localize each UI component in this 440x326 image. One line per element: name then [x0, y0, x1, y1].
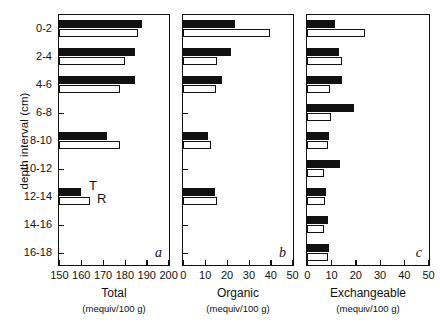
bar-row-16-18 — [59, 242, 168, 264]
bar-b-0-2-T — [183, 20, 235, 28]
x-axis-unit-b: (mequiv/100 g) — [182, 303, 294, 314]
bar-c-8-10-T — [307, 132, 329, 140]
panel-letter-a: a — [155, 245, 162, 261]
bar-row-4-6 — [59, 74, 168, 96]
panel-letter-c: c — [416, 245, 422, 261]
bar-c-0-2-R — [307, 29, 365, 37]
bar-c-10-12-R — [307, 169, 324, 177]
x-tick-labels-a: 150160170180190200 — [59, 268, 168, 282]
x-tick-labels-b: 01020304050 — [183, 268, 292, 282]
bar-row-0-2 — [307, 18, 428, 40]
bar-a-0-2-T — [59, 20, 142, 28]
bar-row-6-8 — [59, 102, 168, 124]
panel-letter-b: b — [279, 245, 286, 261]
bar-c-10-12-T — [307, 160, 340, 168]
bar-b-4-6-T — [183, 76, 222, 84]
bar-c-8-10-R — [307, 141, 328, 149]
bar-row-10-12 — [307, 158, 428, 180]
bar-b-12-14-R — [183, 197, 217, 205]
bar-a-0-2-R — [59, 29, 138, 37]
bar-a-4-6-R — [59, 85, 120, 93]
y-tick-label-8-10: 8-10 — [30, 135, 52, 145]
bar-row-6-8 — [183, 102, 292, 124]
figure-root: depth interval (cm) 0-22-44-66-88-1010-1… — [0, 0, 440, 326]
y-tick-label-0-2: 0-2 — [36, 23, 52, 33]
bar-row-0-2 — [59, 18, 168, 40]
x-axis-title-a: Total — [58, 286, 170, 300]
x-tick-mark-50 — [428, 260, 429, 265]
y-tick-label-16-18: 16-18 — [24, 247, 52, 257]
bar-c-12-14-T — [307, 188, 326, 196]
y-tick-label-2-4: 2-4 — [36, 51, 52, 61]
bar-row-6-8 — [307, 102, 428, 124]
x-axis-title-b: Organic — [182, 286, 294, 300]
bar-c-14-16-R — [307, 225, 324, 233]
x-tick-mark-200 — [168, 260, 169, 265]
bar-a-4-6-T — [59, 76, 135, 84]
bar-row-0-2 — [183, 18, 292, 40]
x-tick-labels-c: 01020304050 — [307, 268, 428, 282]
x-axis-title-c: Exchangeable — [306, 286, 430, 300]
bar-c-4-6-T — [307, 76, 342, 84]
bar-row-8-10 — [183, 130, 292, 152]
y-tick-label-10-12: 10-12 — [24, 163, 52, 173]
bar-a-12-14-R — [59, 197, 90, 205]
x-tick-mark-50 — [292, 260, 293, 265]
bar-b-0-2-R — [183, 29, 270, 37]
bar-row-8-10 — [307, 130, 428, 152]
legend-key-R: R — [97, 192, 106, 205]
bar-row-16-18 — [307, 242, 428, 264]
bar-row-12-14 — [307, 186, 428, 208]
chart-panel-c: c — [306, 14, 430, 266]
bar-row-14-16 — [59, 214, 168, 236]
legend-key-T: T — [89, 179, 97, 192]
x-axis-unit-c: (mequiv/100 g) — [306, 303, 430, 314]
bar-a-2-4-T — [59, 48, 135, 56]
bar-c-6-8-R — [307, 113, 331, 121]
bar-c-14-16-T — [307, 216, 328, 224]
bar-c-2-4-R — [307, 57, 342, 65]
bar-c-16-18-R — [307, 253, 328, 261]
bar-row-2-4 — [59, 46, 168, 68]
bar-c-4-6-R — [307, 85, 330, 93]
bar-row-4-6 — [307, 74, 428, 96]
bar-b-2-4-R — [183, 57, 217, 65]
bar-c-6-8-T — [307, 104, 354, 112]
bar-a-2-4-R — [59, 57, 125, 65]
bar-row-8-10 — [59, 130, 168, 152]
bar-c-2-4-T — [307, 48, 339, 56]
bar-a-8-10-R — [59, 141, 120, 149]
bar-a-8-10-T — [59, 132, 107, 140]
y-tick-label-12-14: 12-14 — [24, 191, 52, 201]
y-tick-label-4-6: 4-6 — [36, 79, 52, 89]
bar-row-4-6 — [183, 74, 292, 96]
y-tick-label-14-16: 14-16 — [24, 219, 52, 229]
bar-row-10-12 — [183, 158, 292, 180]
bar-a-12-14-T — [59, 188, 81, 196]
bar-b-4-6-R — [183, 85, 216, 93]
bar-b-8-10-R — [183, 141, 211, 149]
chart-panel-a: a — [58, 14, 170, 266]
chart-panel-b: b — [182, 14, 294, 266]
bar-b-12-14-T — [183, 188, 215, 196]
bar-row-12-14 — [59, 186, 168, 208]
bar-row-12-14 — [183, 186, 292, 208]
bar-c-12-14-R — [307, 197, 325, 205]
bar-row-16-18 — [183, 242, 292, 264]
bar-row-14-16 — [183, 214, 292, 236]
y-tick-label-6-8: 6-8 — [36, 107, 52, 117]
bar-b-8-10-T — [183, 132, 208, 140]
bar-c-0-2-T — [307, 20, 335, 28]
bar-row-10-12 — [59, 158, 168, 180]
bar-row-14-16 — [307, 214, 428, 236]
bar-c-16-18-T — [307, 244, 329, 252]
x-axis-unit-a: (mequiv/100 g) — [58, 303, 170, 314]
bar-row-2-4 — [307, 46, 428, 68]
bar-row-2-4 — [183, 46, 292, 68]
bar-b-2-4-T — [183, 48, 231, 56]
x-tick-label-c-50: 50 — [411, 268, 440, 282]
